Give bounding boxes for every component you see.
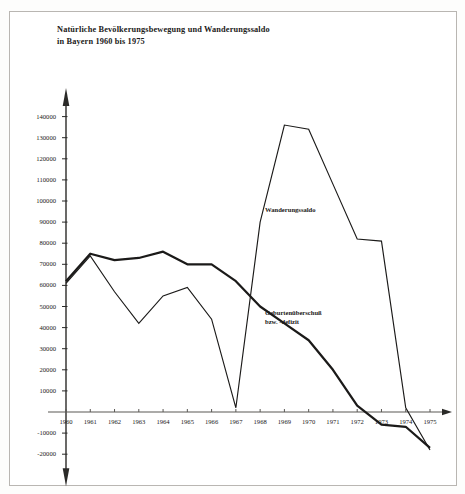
x-axis-tick-label: 1963 bbox=[127, 418, 151, 425]
y-axis-tick-label: 80000 bbox=[8, 239, 56, 246]
y-axis-tick-label: 10000 bbox=[8, 387, 56, 394]
annotation-geburtenueberschuss-line-2: bzw. -defizit bbox=[265, 317, 322, 326]
y-axis-tick-label: -20000 bbox=[8, 450, 56, 457]
x-axis-tick-label: 1967 bbox=[224, 418, 248, 425]
x-axis-tick-label: 1965 bbox=[175, 418, 199, 425]
x-axis-tick-label: 1971 bbox=[321, 418, 345, 425]
y-axis-tick-label: 120000 bbox=[8, 155, 56, 162]
x-axis-tick-label: 1964 bbox=[151, 418, 175, 425]
chart-page: Natürliche Bevölkerungsbewegung und Wand… bbox=[0, 0, 465, 494]
x-axis-tick-label: 1975 bbox=[418, 418, 442, 425]
y-axis-tick-label: 100000 bbox=[8, 197, 56, 204]
y-axis-arrow-top-icon bbox=[63, 88, 70, 106]
x-axis-tick-label: 1969 bbox=[272, 418, 296, 425]
y-axis-tick-label: 50000 bbox=[8, 303, 56, 310]
y-axis-tick-label: -10000 bbox=[8, 429, 56, 436]
y-axis-tick-label: 90000 bbox=[8, 218, 56, 225]
x-axis-tick-label: 1960 bbox=[54, 418, 78, 425]
annotation-geburtenueberschuss-line-1: Geburtenüberschuß bbox=[265, 308, 322, 317]
x-axis-tick-label: 1961 bbox=[78, 418, 102, 425]
y-axis-tick-label: 20000 bbox=[8, 366, 56, 373]
y-axis-tick-label: 70000 bbox=[8, 260, 56, 267]
x-axis-arrow-icon bbox=[442, 409, 452, 415]
y-axis-tick-label: 30000 bbox=[8, 345, 56, 352]
y-axis-tick-label: 40000 bbox=[8, 324, 56, 331]
y-axis-tick-label: 140000 bbox=[8, 113, 56, 120]
x-axis-tick-label: 1966 bbox=[200, 418, 224, 425]
series-line-wanderungssaldo bbox=[66, 125, 430, 450]
y-axis-tick-label: 130000 bbox=[8, 134, 56, 141]
annotation-geburtenueberschuss: Geburtenüberschuß bzw. -defizit bbox=[265, 308, 322, 326]
y-axis-tick-label: 60000 bbox=[8, 281, 56, 288]
x-axis-tick-label: 1962 bbox=[103, 418, 127, 425]
annotation-wanderungssaldo-text: Wanderungssaldo bbox=[265, 206, 316, 213]
y-axis-tick-label: 110000 bbox=[8, 176, 56, 183]
y-axis-arrow-bottom-icon bbox=[63, 468, 70, 486]
x-axis-tick-label: 1974 bbox=[394, 418, 418, 425]
x-axis-tick-label: 1972 bbox=[345, 418, 369, 425]
annotation-wanderungssaldo: Wanderungssaldo bbox=[265, 205, 316, 214]
x-axis-tick-label: 1973 bbox=[369, 418, 393, 425]
x-axis-tick-label: 1970 bbox=[297, 418, 321, 425]
x-axis-tick-label: 1968 bbox=[248, 418, 272, 425]
